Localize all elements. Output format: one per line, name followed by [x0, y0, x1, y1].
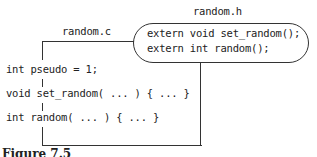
source-bracket-top: [42, 41, 134, 42]
source-line-3: int random( ... ) { ... }: [6, 111, 159, 123]
header-line-2: extern int random();: [147, 42, 269, 54]
source-bracket-left-top: [42, 41, 43, 60]
figure-caption: Figure 7.5: [2, 147, 71, 157]
header-line-1: extern void set_random();: [147, 27, 300, 39]
header-file-label: random.h: [193, 5, 242, 17]
source-line-2: void set_random( ... ) { ... }: [6, 87, 190, 99]
connector-1: [42, 79, 43, 87]
source-bracket-right: [200, 63, 201, 146]
source-line-1: int pseudo = 1;: [6, 63, 98, 75]
source-bracket-left-bottom: [42, 127, 43, 146]
connector-2: [42, 103, 43, 111]
source-file-label: random.c: [62, 25, 111, 37]
